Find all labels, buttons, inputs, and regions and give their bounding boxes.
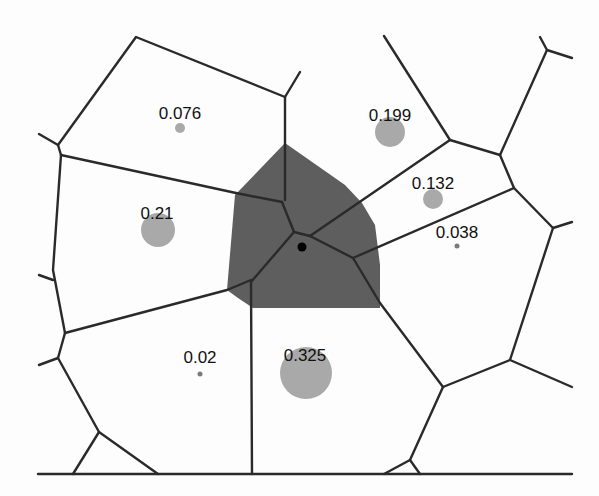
query-point — [298, 243, 307, 252]
site-circle-0-076 — [175, 123, 185, 133]
site-circle-0-038 — [455, 244, 460, 249]
site-label-0-199: 0.199 — [369, 106, 412, 125]
site-label-0-325: 0.325 — [284, 346, 327, 365]
voronoi-diagram: 0.076 0.199 0.132 0.038 0.21 0.02 0.325 — [0, 0, 599, 496]
site-label-0-038: 0.038 — [436, 223, 479, 242]
site-label-0-076: 0.076 — [159, 104, 202, 123]
site-label-0-02: 0.02 — [183, 348, 216, 367]
site-label-0-132: 0.132 — [412, 174, 455, 193]
site-label-0-21: 0.21 — [140, 204, 173, 223]
site-circle-0-02 — [198, 372, 203, 377]
diagram-canvas: 0.076 0.199 0.132 0.038 0.21 0.02 0.325 — [0, 0, 599, 496]
